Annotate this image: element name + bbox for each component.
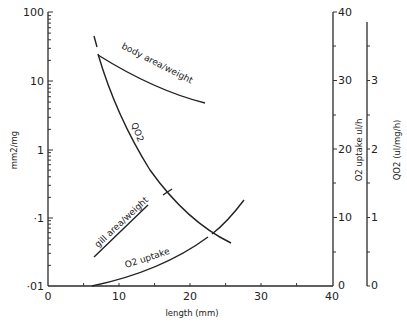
uptake-tick-40: 40 <box>338 6 352 19</box>
left-tick-100: 100 <box>23 6 44 19</box>
qo2-tick-0: 0 <box>371 279 378 292</box>
right-y-axis-qo2: 3 2 1 0 QO2 (ul/mg/h) <box>367 22 402 292</box>
x-tick-30: 30 <box>254 290 268 303</box>
x-tick-0: 0 <box>45 290 52 303</box>
left-tick-0.01: ·01 <box>27 280 45 293</box>
qo2-tick-2: 2 <box>371 143 378 156</box>
left-tick-10: 10 <box>30 75 44 88</box>
qo2-tick-1: 1 <box>371 211 378 224</box>
uptake-tick-30: 30 <box>338 74 352 87</box>
uptake-tick-0: 0 <box>338 279 345 292</box>
x-axis-label: length (mm) <box>166 308 219 318</box>
uptake-axis-label: O2 uptake ul/h <box>354 119 364 182</box>
x-tick-40: 40 <box>325 290 339 303</box>
right-y-axis-uptake: 40 30 20 10 0 O2 uptake ul/h <box>333 6 364 292</box>
uptake-tick-10: 10 <box>338 211 352 224</box>
gill-area-label: gill area/weight <box>93 194 151 249</box>
x-axis: 0 10 20 30 40 length (mm) <box>45 283 340 318</box>
qo2-tick-3: 3 <box>371 74 378 87</box>
body-area-label: body area/weight <box>120 41 195 86</box>
x-tick-10: 10 <box>112 290 126 303</box>
o2-uptake-curve <box>92 200 244 286</box>
left-y-axis: 100 10 1 ·1 ·01 mm2/mg <box>9 6 53 293</box>
chart: 100 10 1 ·1 ·01 mm2/mg 0 10 20 30 40 len… <box>0 0 407 324</box>
o2-uptake-label: O2 uptake <box>124 246 172 270</box>
gill-area-curve <box>94 189 172 257</box>
left-y-axis-label: mm2/mg <box>9 131 19 170</box>
x-tick-20: 20 <box>183 290 197 303</box>
qo2-axis-label: QO2 (ul/mg/h) <box>392 120 402 181</box>
uptake-tick-20: 20 <box>338 143 352 156</box>
qo2-label: QO2 <box>129 121 146 143</box>
left-tick-1: 1 <box>37 144 44 157</box>
left-tick-0.1: ·1 <box>34 212 45 225</box>
